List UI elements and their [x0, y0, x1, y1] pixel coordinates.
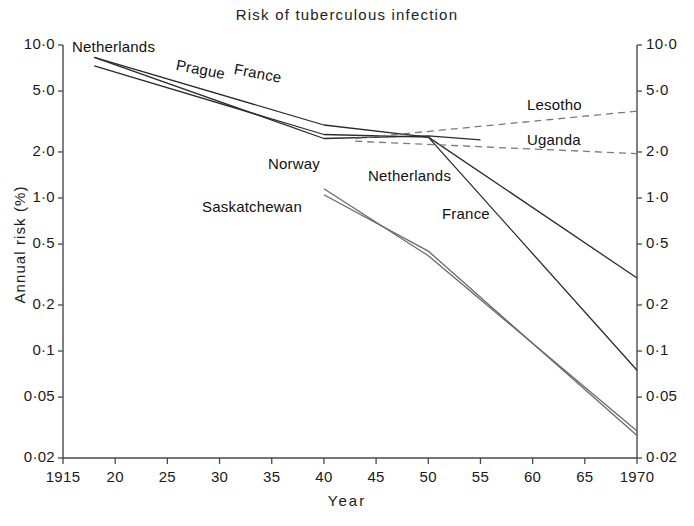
y-tick-label-right: 0·2: [646, 295, 694, 312]
series-label-netherlands: Netherlands: [72, 38, 155, 55]
series-label-lesotho: Lesotho: [527, 96, 582, 113]
x-tick-label: 50: [402, 468, 454, 485]
y-tick-label: 10·0: [0, 35, 55, 52]
series-line-prague: [94, 57, 480, 139]
x-tick-label: 25: [141, 468, 193, 485]
y-tick-label: 0·05: [0, 387, 55, 404]
series-label-saskatchewan: Saskatchewan: [202, 198, 302, 215]
chart-figure: Risk of tuberculous infection Annual ris…: [0, 0, 694, 526]
y-tick-label-right: 0·02: [646, 448, 694, 465]
series-label-norway: Norway: [268, 155, 320, 172]
series-line-saskatchewan: [324, 195, 637, 436]
series-line-lesotho: [355, 111, 637, 138]
x-tick-label: 55: [454, 468, 506, 485]
x-tick-label: 1915: [37, 468, 89, 485]
series-label-netherlands-lower: Netherlands: [368, 167, 451, 184]
plot-area: [0, 0, 694, 526]
y-tick-label-right: 0·1: [646, 341, 694, 358]
x-tick-label: 40: [298, 468, 350, 485]
x-tick-label: 30: [194, 468, 246, 485]
y-tick-label: 0·2: [0, 295, 55, 312]
y-tick-label-right: 2·0: [646, 142, 694, 159]
x-tick-label: 65: [559, 468, 611, 485]
y-tick-label: 2·0: [0, 142, 55, 159]
series-group: [94, 57, 637, 435]
series-line-uganda: [355, 141, 637, 153]
y-tick-label-right: 0·5: [646, 234, 694, 251]
x-tick-label: 60: [507, 468, 559, 485]
y-tick-label: 1·0: [0, 188, 55, 205]
y-tick-label: 0·5: [0, 234, 55, 251]
y-tick-label: 0·1: [0, 341, 55, 358]
y-tick-label: 5·0: [0, 81, 55, 98]
series-label-uganda: Uganda: [527, 131, 581, 148]
y-tick-label-right: 1·0: [646, 188, 694, 205]
y-tick-label-right: 10·0: [646, 35, 694, 52]
x-tick-label: 45: [350, 468, 402, 485]
y-tick-label-right: 5·0: [646, 81, 694, 98]
x-tick-label: 20: [89, 468, 141, 485]
y-tick-label: 0·02: [0, 448, 55, 465]
x-tick-label: 1970: [611, 468, 663, 485]
y-tick-label-right: 0·05: [646, 387, 694, 404]
x-tick-label: 35: [246, 468, 298, 485]
series-label-france-lower: France: [442, 205, 490, 222]
